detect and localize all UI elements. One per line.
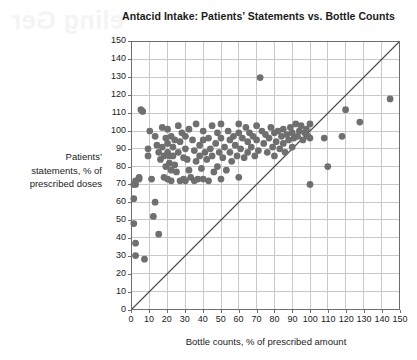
y-axis-title: Patients’ statements, % of prescribed do…: [2, 150, 102, 191]
x-tick-mark: [400, 310, 401, 313]
plot-area: [131, 41, 400, 310]
y-tick-mark: [128, 202, 131, 203]
y-tick-mark: [128, 59, 131, 60]
x-tick-mark: [221, 310, 222, 313]
x-tick-mark: [185, 310, 186, 313]
y-tick-label: 120: [102, 89, 126, 99]
x-tick-mark: [328, 310, 329, 313]
y-tick-mark: [128, 113, 131, 114]
y-tick-label: 0: [102, 304, 126, 314]
y-tick-label: 20: [102, 268, 126, 278]
y-axis-title-line-2: statements, % of: [2, 164, 102, 178]
x-tick-mark: [167, 310, 168, 313]
y-tick-label: 130: [102, 71, 126, 81]
y-tick-label: 150: [102, 35, 126, 45]
y-tick-label: 110: [102, 107, 126, 117]
x-tick-mark: [239, 310, 240, 313]
y-tick-mark: [128, 184, 131, 185]
x-tick-label: 150: [388, 314, 412, 324]
x-tick-mark: [274, 310, 275, 313]
x-tick-mark: [292, 310, 293, 313]
x-tick-mark: [257, 310, 258, 313]
y-tick-mark: [128, 149, 131, 150]
y-axis-title-line-3: prescribed doses: [2, 177, 102, 191]
y-tick-mark: [128, 41, 131, 42]
y-tick-label: 60: [102, 196, 126, 206]
y-tick-label: 50: [102, 214, 126, 224]
y-tick-mark: [128, 95, 131, 96]
y-tick-label: 70: [102, 178, 126, 188]
y-tick-mark: [128, 167, 131, 168]
y-tick-label: 40: [102, 232, 126, 242]
scatter-points: [132, 42, 399, 309]
x-tick-mark: [310, 310, 311, 313]
y-tick-label: 80: [102, 161, 126, 171]
y-tick-mark: [128, 77, 131, 78]
y-axis-title-line-1: Patients’: [2, 150, 102, 164]
y-tick-label: 10: [102, 286, 126, 296]
y-tick-label: 90: [102, 143, 126, 153]
x-tick-mark: [346, 310, 347, 313]
x-tick-mark: [203, 310, 204, 313]
y-tick-mark: [128, 292, 131, 293]
y-tick-label: 100: [102, 125, 126, 135]
y-tick-label: 140: [102, 53, 126, 63]
x-tick-mark: [149, 310, 150, 313]
x-tick-mark: [131, 310, 132, 313]
y-tick-mark: [128, 274, 131, 275]
chart-figure: eling Ger Antacid Intake: Patients’ Stat…: [0, 0, 417, 360]
chart-title: Antacid Intake: Patients’ Statements vs.…: [104, 10, 413, 22]
y-tick-mark: [128, 256, 131, 257]
y-tick-mark: [128, 238, 131, 239]
y-tick-label: 30: [102, 250, 126, 260]
y-tick-mark: [128, 220, 131, 221]
y-tick-mark: [128, 310, 131, 311]
y-tick-mark: [128, 131, 131, 132]
x-tick-mark: [364, 310, 365, 313]
x-axis-title: Bottle counts, % of prescribed amount: [131, 336, 401, 347]
x-tick-mark: [382, 310, 383, 313]
